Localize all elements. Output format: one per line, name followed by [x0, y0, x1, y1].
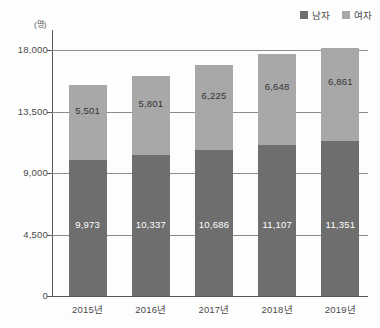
legend-label-male: 남자	[312, 8, 330, 22]
bar-group[interactable]: 10,6866,225	[195, 65, 233, 296]
bar-value-label-female: 5,801	[132, 98, 170, 109]
bar-group[interactable]: 11,3516,861	[321, 48, 359, 296]
plot-area: 04,5009,00013,50018,000 9,9735,50110,337…	[52, 30, 368, 296]
bar-group[interactable]: 9,9735,501	[69, 85, 107, 296]
bar-value-label-female: 6,861	[321, 76, 359, 87]
bar-value-label-male: 9,973	[69, 219, 107, 230]
bar-value-label-male: 10,337	[132, 219, 170, 230]
bar-value-label-male: 10,686	[195, 219, 233, 230]
legend-entry-female: 여자	[342, 8, 372, 22]
stacked-bar-chart: 남자 여자 (명) 04,5009,00013,50018,000 9,9735…	[0, 0, 380, 328]
legend-swatch-female	[342, 11, 350, 19]
y-axis-line	[52, 30, 53, 296]
y-axis-unit-label: (명)	[34, 18, 46, 29]
x-axis-tick-label: 2019년	[309, 302, 372, 316]
bar-value-label-female: 6,225	[195, 90, 233, 101]
legend-entry-male: 남자	[300, 8, 330, 22]
legend-label-female: 여자	[354, 8, 372, 22]
bar-segment-female[interactable]	[132, 76, 170, 155]
bar-segment-female[interactable]	[69, 85, 107, 160]
x-axis-tick-label: 2017년	[182, 302, 245, 316]
y-axis-tick-label: 4,500	[0, 229, 48, 240]
chart-legend: 남자 여자	[300, 8, 372, 22]
bar-value-label-male: 11,351	[321, 219, 359, 230]
y-axis-tick-label: 9,000	[0, 167, 48, 178]
bar-segment-female[interactable]	[195, 65, 233, 150]
x-axis-baseline	[52, 296, 368, 297]
y-axis-tick-label: 0	[0, 290, 48, 301]
x-axis-tick-label: 2015년	[56, 302, 119, 316]
y-axis-tick-label: 13,500	[0, 106, 48, 117]
bar-value-label-female: 5,501	[69, 105, 107, 116]
bar-value-label-female: 6,648	[258, 81, 296, 92]
y-axis-tick-label: 18,000	[0, 44, 48, 55]
bar-value-label-male: 11,107	[258, 219, 296, 230]
x-axis-tick-label: 2016년	[119, 302, 182, 316]
bar-group[interactable]: 10,3375,801	[132, 76, 170, 296]
legend-swatch-male	[300, 11, 308, 19]
bar-segment-female[interactable]	[321, 48, 359, 142]
bar-group[interactable]: 11,1076,648	[258, 54, 296, 296]
x-axis-tick-label: 2018년	[246, 302, 309, 316]
bar-segment-female[interactable]	[258, 54, 296, 145]
